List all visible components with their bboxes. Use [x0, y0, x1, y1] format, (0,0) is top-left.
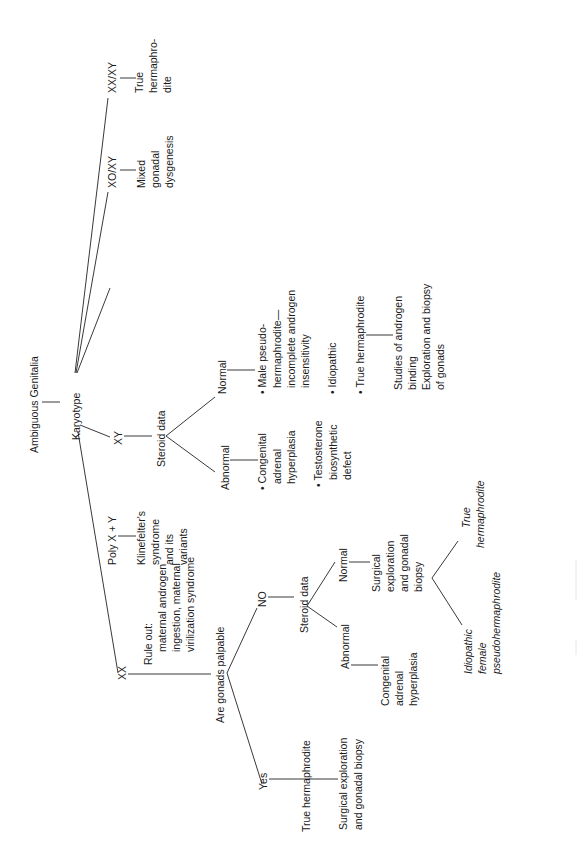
svg-text:• Idiopathic: • Idiopathic — [326, 342, 338, 394]
xx-outcome-idiopathic-female-pseudohermaphrodite: Idiopathic female pseudohermaphrodite — [462, 572, 502, 675]
node-xx-abnormal: Abnormal — [339, 624, 351, 669]
svg-text:and gonadal: and gonadal — [398, 534, 410, 592]
edge-xx-steroid-split — [307, 562, 337, 627]
xx-abnormal-congenital-adrenal-hyperplasia: Congenital adrenal hyperplasia — [379, 652, 419, 706]
svg-text:hermaphrodite—: hermaphrodite— — [271, 309, 283, 388]
svg-text:Surgical: Surgical — [370, 554, 382, 592]
xx-rule-out-note: Rule out: maternal androgen ingestion, m… — [142, 557, 196, 665]
node-xy-steroid-data: Steroid data — [155, 410, 167, 467]
svg-text:insensitivity: insensitivity — [299, 334, 311, 388]
svg-text:• True hermaphrodite: • True hermaphrodite — [354, 296, 366, 394]
edge-karyotype-xxxy — [75, 98, 108, 373]
svg-text:Idiopathic: Idiopathic — [462, 628, 474, 674]
node-karyotype: Karyotype — [70, 393, 82, 440]
xx-normal-surgical-exploration: Surgical exploration and gonadal biopsy — [370, 534, 424, 592]
xy-normal-male-pseudohermaphrodite: • Male pseudo- hermaphrodite— incomplete… — [256, 290, 311, 394]
node-xo-xy: XO/XY — [106, 156, 118, 188]
svg-text:virilization syndrome: virilization syndrome — [184, 557, 196, 652]
node-xy-normal: Normal — [216, 360, 228, 394]
edge-gonads-split — [227, 608, 262, 784]
node-xx: XX — [116, 666, 128, 680]
svg-text:Klinefelter's: Klinefelter's — [135, 511, 147, 565]
node-are-gonads-palpable: Are gonads palpable — [214, 627, 226, 723]
node-poly-x-y: Poly X + Y — [106, 516, 118, 565]
svg-text:incomplete androgen: incomplete androgen — [285, 290, 297, 388]
node-xy: XY — [112, 431, 124, 445]
edge-karyotype-xoxy — [76, 192, 108, 373]
svg-text:and its: and its — [163, 534, 175, 565]
node-ambiguous-genitalia: Ambiguous Genitalia — [28, 356, 40, 453]
svg-text:Studies of androgen: Studies of androgen — [392, 296, 404, 390]
edge-xy-steroid-split — [166, 397, 215, 472]
svg-text:True: True — [133, 72, 145, 93]
edge-karyotype-xy — [80, 425, 110, 437]
svg-text:pseudohermaphrodite: pseudohermaphrodite — [490, 572, 502, 675]
node-yes: Yes — [257, 773, 269, 790]
svg-text:ingestion, maternal: ingestion, maternal — [170, 563, 182, 652]
svg-text:binding: binding — [406, 356, 418, 390]
node-xy-abnormal: Abnormal — [219, 445, 231, 490]
edge-xx-normal-outcomes-split — [432, 541, 462, 625]
svg-text:biopsy: biopsy — [412, 561, 424, 592]
svg-text:maternal androgen: maternal androgen — [156, 564, 168, 652]
xx-outcome-true-hermaphrodite: True hermaphrodite — [460, 480, 486, 548]
xy-normal-studies-exploration: Studies of androgen binding Exploration … — [392, 283, 446, 390]
svg-text:hermaphro-: hermaphro- — [147, 38, 159, 93]
node-klinefelter: Klinefelter's syndrome and its variants — [135, 511, 189, 565]
svg-text:adrenal: adrenal — [271, 449, 283, 484]
svg-text:hermaphrodite: hermaphrodite — [474, 480, 486, 548]
svg-text:hyperplasia: hyperplasia — [407, 652, 419, 706]
svg-text:and gonadal biopsy: and gonadal biopsy — [352, 738, 364, 830]
edge-karyotype-poly — [77, 288, 110, 373]
svg-text:• Testosterone: • Testosterone — [312, 420, 324, 487]
svg-text:of gonads: of gonads — [434, 344, 446, 390]
svg-text:exploration: exploration — [384, 540, 396, 592]
svg-text:gonadal: gonadal — [149, 151, 161, 188]
node-xx-normal: Normal — [337, 548, 349, 582]
svg-text:dite: dite — [161, 76, 173, 93]
xy-normal-true-hermaphrodite: • True hermaphrodite — [354, 296, 366, 394]
svg-text:biosynthetic: biosynthetic — [327, 425, 339, 480]
ambiguous-genitalia-flowchart: Ambiguous Genitalia Karyotype Poly X + Y… — [0, 0, 583, 855]
svg-text:defect: defect — [341, 451, 353, 480]
node-no: NO — [256, 591, 268, 607]
svg-text:hyperplasia: hyperplasia — [285, 430, 297, 484]
node-xx-yes-surgical-exploration: Surgical exploration and gonadal biopsy — [337, 738, 364, 830]
node-mixed-gonadal-dysgenesis: Mixed gonadal dysgenesis — [135, 135, 175, 188]
svg-text:dysgenesis: dysgenesis — [163, 135, 175, 188]
node-xx-true-hermaphrodite: True hermaphrodite — [300, 740, 312, 832]
svg-text:Mixed: Mixed — [135, 160, 147, 188]
svg-text:Surgical exploration: Surgical exploration — [337, 738, 349, 830]
node-xx-xy: XX/XY — [106, 62, 118, 93]
svg-text:female: female — [476, 642, 488, 674]
xy-abnormal-congenital-adrenal-hyperplasia: • Congenital adrenal hyperplasia — [256, 430, 297, 490]
svg-text:Congenital: Congenital — [379, 656, 391, 706]
svg-text:Rule out:: Rule out: — [142, 623, 154, 665]
svg-text:• Congenital: • Congenital — [256, 433, 268, 490]
xy-abnormal-testosterone-biosynthetic-defect: • Testosterone biosynthetic defect — [312, 420, 353, 487]
svg-text:syndrome: syndrome — [149, 519, 161, 565]
svg-text:Exploration and biopsy: Exploration and biopsy — [420, 283, 432, 390]
svg-text:• Male pseudo-: • Male pseudo- — [256, 323, 268, 394]
node-true-hermaphrodite-xxxy: True hermaphro- dite — [133, 38, 173, 93]
xy-normal-idiopathic: • Idiopathic — [326, 342, 338, 394]
svg-text:adrenal: adrenal — [393, 671, 405, 706]
svg-text:True: True — [460, 507, 472, 528]
